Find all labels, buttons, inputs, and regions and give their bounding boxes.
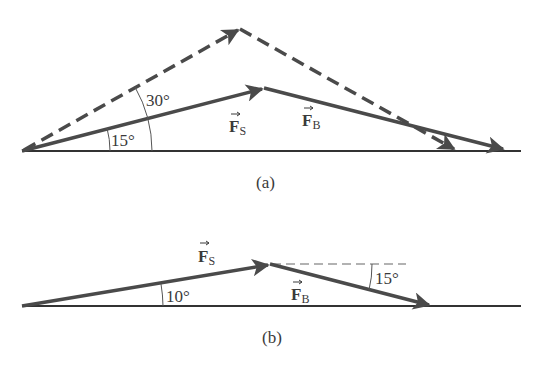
vector-arrow-icon xyxy=(231,112,240,116)
svg-text:FS: FS xyxy=(229,117,246,138)
vector-arrow-icon xyxy=(200,241,209,245)
angle-label-15-a: 15° xyxy=(111,131,135,150)
svg-text:FS: FS xyxy=(198,247,215,268)
angle-arc-10-b xyxy=(161,284,163,306)
caption-b: (b) xyxy=(262,328,282,347)
angle-label-30-a: 30° xyxy=(146,91,170,110)
figure-a: 15° 30° FS FB (a) xyxy=(22,29,521,192)
vector-arrow-icon xyxy=(293,280,302,284)
vector-arrow-icon xyxy=(304,106,313,110)
svg-text:FB: FB xyxy=(291,285,309,306)
caption-a: (a) xyxy=(256,173,275,192)
label-fs-b: FS xyxy=(198,241,215,268)
angle-label-10-b: 10° xyxy=(166,287,190,306)
svg-text:FB: FB xyxy=(302,111,320,132)
vector-diagram: 15° 30° FS FB (a) 10° 15° FS FB (b) xyxy=(0,0,539,378)
vector-fs-a xyxy=(22,89,262,151)
label-fs-a: FS xyxy=(229,112,246,138)
figure-b: 10° 15° FS FB (b) xyxy=(22,241,521,347)
label-fb-b: FB xyxy=(291,280,309,306)
angle-arc-15-b xyxy=(369,264,372,290)
vector-fs-b xyxy=(22,265,268,306)
vector-fb-a xyxy=(264,88,503,149)
angle-label-15-b: 15° xyxy=(375,269,399,288)
label-fb-a: FB xyxy=(302,106,320,132)
angle-arc-15-a xyxy=(107,128,110,151)
